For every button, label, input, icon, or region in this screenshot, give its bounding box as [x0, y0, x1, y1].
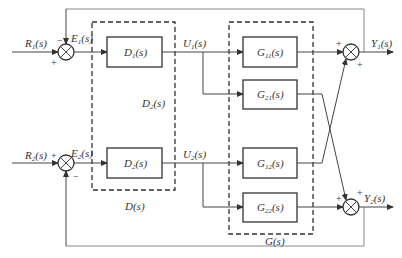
label-y1: Y1(s): [371, 37, 393, 51]
sign-sum2-bottom: −: [73, 171, 79, 182]
label-group-d: D(s): [124, 200, 145, 213]
output-summing-junction-y2: [343, 199, 359, 215]
sign-sum1-left: +: [51, 57, 57, 68]
sign-sum2-left: +: [51, 150, 57, 161]
sign-out2-top: +: [357, 187, 363, 198]
block-g12: G12(s): [243, 148, 297, 178]
output-summing-junction-y1: [343, 44, 359, 60]
block-g21: G21(s): [243, 80, 297, 109]
summing-junction-1: [58, 44, 74, 60]
sign-out1-bottom: +: [357, 59, 363, 70]
label-e2: E2(s): [70, 147, 93, 161]
label-group-g: G(s): [265, 235, 285, 248]
svg-text:D2(s): D2(s): [123, 157, 147, 171]
label-e1: E1(s): [70, 32, 93, 46]
svg-text:D1(s): D1(s): [123, 46, 147, 60]
label-y2: Y2(s): [364, 192, 386, 206]
sign-sum1-top: −: [57, 35, 63, 46]
sign-out2-left: +: [336, 193, 342, 204]
block-diagram: D1(s) D2(s) G11(s) G21(s) G12(s) G22(s): [0, 0, 402, 258]
u1-to-g21-line: [203, 52, 243, 94]
g21-to-sum-y2-line: [297, 94, 346, 200]
sign-out1-left: +: [336, 38, 342, 49]
label-r1: R1(s): [24, 37, 47, 51]
label-d2-inner: D2(s): [141, 97, 165, 111]
g12-to-sum-y1-line: [297, 59, 346, 163]
block-g11: G11(s): [243, 37, 297, 67]
block-d2: D2(s): [107, 148, 162, 178]
block-d1: D1(s): [107, 37, 162, 67]
label-r2: R2(s): [24, 149, 47, 163]
bottom-frame-line: [66, 207, 364, 246]
label-u1: U1(s): [183, 37, 206, 51]
u2-to-g22-line: [203, 163, 243, 207]
label-u2: U2(s): [183, 148, 206, 162]
block-g22: G22(s): [243, 193, 297, 222]
